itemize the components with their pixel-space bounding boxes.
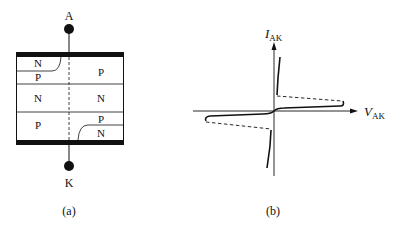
cathode-label: K (65, 176, 74, 190)
y-axis-label: IAK (264, 26, 283, 43)
device-cross-section: A K N P P N N P P N (16, 9, 124, 218)
region-top-left-n: N (34, 57, 42, 69)
iv-characteristic-plot: IAK VAK (b) (193, 26, 385, 218)
region-bottom-right-p: P (98, 113, 104, 125)
reverse-blocking-curve (206, 111, 275, 121)
caption-a: (a) (62, 204, 75, 218)
region-bottom-right-n: N (97, 127, 105, 139)
x-axis-arrow-icon (350, 109, 358, 114)
cathode-metal-contact (16, 140, 124, 145)
forward-on-state-curve (277, 57, 280, 95)
caption-b: (b) (266, 204, 280, 218)
anode-label: A (65, 9, 74, 23)
region-bottom-left-p: P (35, 119, 41, 131)
forward-blocking-curve (274, 101, 344, 111)
region-mid-left-n: N (34, 92, 42, 104)
y-axis-arrow-icon (272, 42, 277, 50)
reverse-breakover-dashed (206, 122, 271, 129)
forward-breakover-dashed (277, 96, 342, 101)
figure-canvas: A K N P P N N P P N (0, 0, 399, 230)
cathode-terminal-icon (64, 161, 74, 171)
region-top-right-p: P (98, 66, 104, 78)
region-mid-right-n: N (97, 92, 105, 104)
anode-metal-contact (16, 52, 124, 57)
reverse-on-state-curve (267, 130, 271, 168)
x-axis-label: VAK (364, 104, 385, 121)
region-top-left-p: P (35, 71, 41, 83)
